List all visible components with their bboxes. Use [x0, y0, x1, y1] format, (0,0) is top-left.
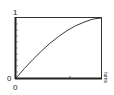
x-axis-label: turns — [103, 72, 109, 84]
plot-frame — [16, 18, 102, 79]
data-curve — [16, 18, 101, 78]
y-label-bottom: 0 — [7, 74, 12, 83]
y-label-top: 1 — [13, 8, 18, 17]
x-label-origin: 0 — [13, 83, 18, 92]
chart: 1 0 0 turns — [0, 0, 114, 95]
